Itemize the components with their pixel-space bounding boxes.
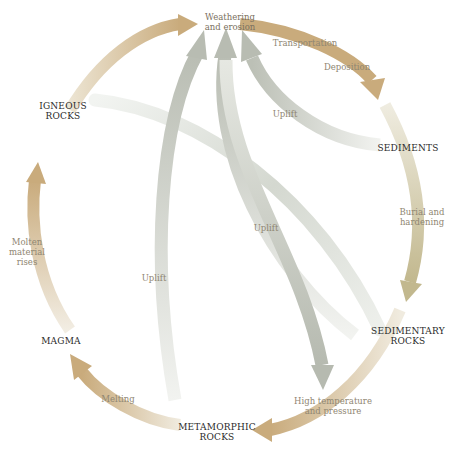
sedimentary-line2: ROCKS	[371, 336, 445, 346]
sediments-line1: SEDIMENTS	[377, 143, 438, 153]
burial-hardening-label: Burial and hardening	[400, 208, 445, 228]
uplift-arrow-middle	[214, 28, 355, 335]
weathering-label: Weathering and erosion	[205, 13, 256, 33]
uplift-arrow-left	[161, 30, 207, 400]
magma-label: MAGMA	[41, 336, 81, 346]
uplift-top-label: Uplift	[273, 110, 298, 120]
molten-material-rises-label: Molten material rises	[9, 238, 45, 267]
high-temp-line2: and pressure	[294, 407, 372, 417]
sedimentary-line1: SEDIMENTARY	[371, 326, 445, 336]
uplift-left-label: Uplift	[142, 274, 167, 284]
deposition-label: Deposition	[324, 63, 370, 73]
metamorphic-rocks-label: METAMORPHIC ROCKS	[178, 422, 256, 443]
molten-line3: rises	[9, 258, 45, 268]
high-temperature-label: High temperature and pressure	[294, 397, 372, 417]
magma-line1: MAGMA	[41, 336, 81, 346]
igneous-line1: IGNEOUS	[39, 101, 87, 111]
weathering-line2: and erosion	[205, 23, 256, 33]
metamorphic-line2: ROCKS	[178, 432, 256, 442]
sedimentary-rocks-label: SEDIMENTARY ROCKS	[371, 326, 445, 347]
rock-cycle-diagram	[0, 0, 459, 453]
uplift-middle-label: Uplift	[254, 224, 279, 234]
burial-line2: hardening	[400, 218, 445, 228]
sediments-label: SEDIMENTS	[377, 143, 438, 153]
metamorphic-line1: METAMORPHIC	[178, 422, 256, 432]
igneous-rocks-label: IGNEOUS ROCKS	[39, 101, 87, 122]
melting-label: Melting	[101, 395, 135, 405]
igneous-line2: ROCKS	[39, 111, 87, 121]
cycle-arrow-burial	[385, 105, 422, 302]
transportation-label: Transportation	[273, 39, 337, 49]
